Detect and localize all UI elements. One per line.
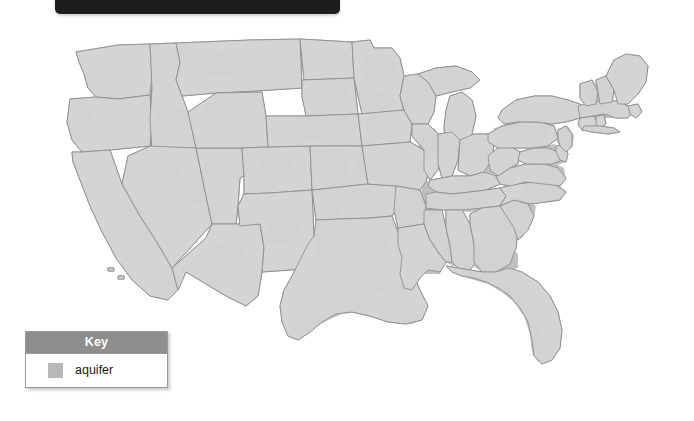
legend-title: Key [26,332,167,354]
legend-item-label: aquifer [75,364,113,377]
map-state-borders [67,39,648,364]
map-legend: Key aquifer [25,331,168,388]
legend-color-swatch [48,363,63,378]
page-root: Key aquifer [0,0,694,421]
legend-item-aquifer: aquifer [26,354,167,387]
